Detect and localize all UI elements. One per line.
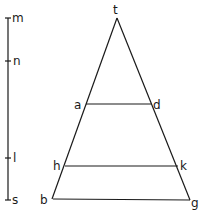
label-m: m bbox=[12, 11, 24, 25]
label-d: d bbox=[153, 98, 161, 112]
label-t: t bbox=[113, 3, 118, 17]
label-k: k bbox=[180, 159, 187, 173]
base-bg bbox=[53, 199, 190, 200]
diagram-canvas: m n l s t a d h k b g bbox=[0, 0, 200, 212]
label-g: g bbox=[191, 196, 199, 210]
label-b: b bbox=[40, 193, 48, 207]
label-l: l bbox=[13, 151, 16, 165]
label-a: a bbox=[74, 98, 81, 112]
label-n: n bbox=[13, 54, 21, 68]
side-tb bbox=[52, 18, 117, 199]
triangle bbox=[52, 18, 190, 200]
label-h: h bbox=[53, 159, 61, 173]
vertical-scale bbox=[5, 18, 11, 200]
label-s: s bbox=[12, 193, 18, 207]
